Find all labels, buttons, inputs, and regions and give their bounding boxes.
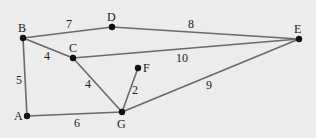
node-label-b: B (18, 21, 26, 35)
edge-weight-c-e: 10 (176, 51, 188, 65)
edge-weight-g-e: 9 (206, 78, 212, 92)
edge-weight-b-a: 5 (16, 73, 22, 87)
node-label-g: G (117, 117, 126, 131)
node-a (24, 113, 30, 119)
node-c (70, 55, 76, 61)
edge-weight-d-e: 8 (188, 17, 194, 31)
weighted-graph-diagram: 7841054296 ABCDEFG (0, 0, 316, 138)
node-labels: ABCDEFG (14, 10, 301, 131)
edge-weight-f-g: 2 (132, 83, 138, 97)
node-d (109, 24, 115, 30)
edge-weight-c-g: 4 (85, 77, 91, 91)
node-label-f: F (143, 61, 150, 75)
node-f (135, 65, 141, 71)
edge-b-a (23, 38, 27, 116)
node-label-a: A (14, 109, 23, 123)
node-g (119, 109, 125, 115)
edge-c-g (73, 58, 122, 112)
edge-weight-b-c: 4 (44, 49, 50, 63)
graph-nodes (20, 24, 302, 119)
edge-weight-b-d: 7 (66, 17, 72, 31)
node-label-d: D (107, 10, 116, 24)
edge-d-e (112, 27, 299, 39)
node-label-e: E (294, 22, 301, 36)
node-b (20, 35, 26, 41)
graph-edges (23, 27, 299, 116)
node-e (296, 36, 302, 42)
edge-weight-a-g: 6 (74, 116, 80, 130)
edge-g-e (122, 39, 299, 112)
node-label-c: C (69, 41, 77, 55)
